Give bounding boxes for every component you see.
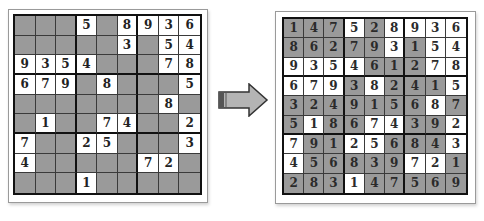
sudoku-cell: 3 xyxy=(345,77,365,96)
sudoku-cell: 5 xyxy=(345,19,365,38)
sudoku-cell: 4 xyxy=(179,36,200,56)
sudoku-cell: 9 xyxy=(56,75,77,95)
sudoku-cell: 7 xyxy=(405,154,425,173)
sudoku-cell xyxy=(36,36,57,56)
sudoku-cell: 3 xyxy=(385,38,405,57)
sudoku-cell xyxy=(138,134,159,154)
sudoku-cell: 6 xyxy=(426,174,446,193)
sudoku-cell xyxy=(97,55,118,75)
sudoku-cell: 7 xyxy=(345,38,365,57)
sudoku-cell: 4 xyxy=(77,55,98,75)
sudoku-cell xyxy=(138,173,159,193)
sudoku-cell: 4 xyxy=(304,19,324,38)
sudoku-cell: 9 xyxy=(426,116,446,135)
sudoku-cell: 2 xyxy=(304,96,324,115)
sudoku-cell xyxy=(179,173,200,193)
sudoku-cell xyxy=(159,173,180,193)
sudoku-cell: 1 xyxy=(365,96,385,115)
sudoku-cell xyxy=(77,95,98,115)
sudoku-cell xyxy=(97,16,118,36)
sudoku-cell: 8 xyxy=(118,16,139,36)
sudoku-cell: 5 xyxy=(284,116,304,135)
sudoku-cell xyxy=(56,173,77,193)
sudoku-cell: 9 xyxy=(405,19,425,38)
sudoku-cell: 5 xyxy=(159,36,180,56)
sudoku-cell: 7 xyxy=(426,58,446,77)
sudoku-cell xyxy=(97,95,118,115)
sudoku-cell: 4 xyxy=(284,154,304,173)
sudoku-cell xyxy=(15,173,36,193)
sudoku-cell: 3 xyxy=(159,16,180,36)
sudoku-cell xyxy=(118,75,139,95)
sudoku-cell xyxy=(56,154,77,174)
sudoku-cell: 1 xyxy=(324,135,344,154)
sudoku-cell: 9 xyxy=(284,58,304,77)
sudoku-cell: 9 xyxy=(15,55,36,75)
sudoku-cell xyxy=(159,75,180,95)
sudoku-cell: 1 xyxy=(284,19,304,38)
sudoku-cell: 8 xyxy=(284,38,304,57)
solution-grid: 1475289368627931549354612786793824153249… xyxy=(282,17,468,195)
sudoku-cell: 1 xyxy=(36,114,57,134)
sudoku-cell: 2 xyxy=(324,38,344,57)
sudoku-cell: 1 xyxy=(345,174,365,193)
sudoku-cell: 5 xyxy=(304,154,324,173)
sudoku-cell: 2 xyxy=(385,77,405,96)
sudoku-cell: 9 xyxy=(138,16,159,36)
sudoku-cell xyxy=(97,173,118,193)
sudoku-cell: 4 xyxy=(426,135,446,154)
sudoku-cell xyxy=(138,36,159,56)
sudoku-cell: 8 xyxy=(365,77,385,96)
sudoku-cell: 6 xyxy=(365,58,385,77)
sudoku-cell: 8 xyxy=(324,116,344,135)
sudoku-cell: 6 xyxy=(446,19,466,38)
sudoku-cell xyxy=(15,95,36,115)
sudoku-cell: 4 xyxy=(345,58,365,77)
sudoku-cell: 3 xyxy=(284,96,304,115)
sudoku-cell: 1 xyxy=(304,116,324,135)
sudoku-cell: 1 xyxy=(77,173,98,193)
sudoku-cell: 4 xyxy=(324,96,344,115)
sudoku-cell: 8 xyxy=(385,19,405,38)
sudoku-cell: 8 xyxy=(405,135,425,154)
sudoku-cell: 7 xyxy=(324,19,344,38)
sudoku-cell xyxy=(15,114,36,134)
sudoku-cell xyxy=(36,95,57,115)
sudoku-cell: 2 xyxy=(405,58,425,77)
sudoku-cell: 6 xyxy=(284,77,304,96)
sudoku-cell: 4 xyxy=(118,114,139,134)
sudoku-cell xyxy=(97,36,118,56)
sudoku-cell: 6 xyxy=(324,154,344,173)
sudoku-cell xyxy=(15,36,36,56)
sudoku-cell xyxy=(118,95,139,115)
sudoku-cell: 7 xyxy=(304,77,324,96)
sudoku-cell: 3 xyxy=(426,19,446,38)
solution-frame: 1475289368627931549354612786793824153249… xyxy=(275,11,476,204)
sudoku-cell xyxy=(179,95,200,115)
sudoku-cell: 3 xyxy=(446,135,466,154)
sudoku-cell: 7 xyxy=(385,174,405,193)
sudoku-cell xyxy=(36,16,57,36)
sudoku-cell: 6 xyxy=(385,135,405,154)
sudoku-cell xyxy=(179,154,200,174)
right-arrow-icon xyxy=(217,83,269,117)
sudoku-cell: 8 xyxy=(97,75,118,95)
sudoku-cell: 6 xyxy=(405,96,425,115)
sudoku-cell: 8 xyxy=(159,95,180,115)
sudoku-cell: 3 xyxy=(179,134,200,154)
sudoku-cell xyxy=(118,154,139,174)
sudoku-cell: 9 xyxy=(385,154,405,173)
sudoku-cell xyxy=(138,55,159,75)
sudoku-cell: 5 xyxy=(365,135,385,154)
sudoku-cell xyxy=(77,36,98,56)
sudoku-cell xyxy=(138,75,159,95)
sudoku-cell: 3 xyxy=(304,58,324,77)
sudoku-cell xyxy=(138,95,159,115)
sudoku-cell xyxy=(159,114,180,134)
sudoku-cell: 8 xyxy=(446,58,466,77)
sudoku-cell: 2 xyxy=(365,19,385,38)
sudoku-cell xyxy=(56,134,77,154)
sudoku-cell xyxy=(77,114,98,134)
sudoku-cell: 5 xyxy=(97,134,118,154)
sudoku-cell: 5 xyxy=(405,174,425,193)
